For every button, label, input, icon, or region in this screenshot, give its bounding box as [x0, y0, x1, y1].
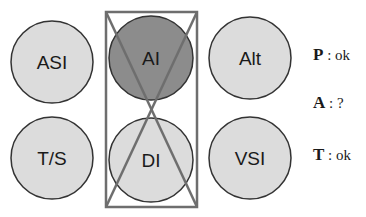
svg-text:ASI: ASI: [37, 52, 68, 73]
svg-text:Alt: Alt: [239, 48, 262, 69]
svg-text:DI: DI: [142, 150, 161, 171]
status-p: P : ok: [313, 45, 350, 65]
svg-text:T/S: T/S: [37, 148, 67, 169]
svg-text:VSI: VSI: [235, 148, 266, 169]
svg-text:AI: AI: [142, 48, 160, 69]
instrument-vsi: VSI: [209, 117, 291, 199]
status-t: T : ok: [313, 145, 351, 165]
diagram-canvas: ASI AI Alt T/S DI VSI: [0, 0, 366, 217]
instrument-di: DI: [109, 118, 193, 202]
instrument-ts: T/S: [11, 117, 93, 199]
instrument-alt: Alt: [209, 17, 291, 99]
instrument-asi: ASI: [11, 21, 93, 103]
status-a: A : ?: [313, 93, 344, 113]
instrument-scan-diagram: ASI AI Alt T/S DI VSI P : ok: [0, 0, 366, 217]
instrument-ai: AI: [109, 16, 193, 100]
